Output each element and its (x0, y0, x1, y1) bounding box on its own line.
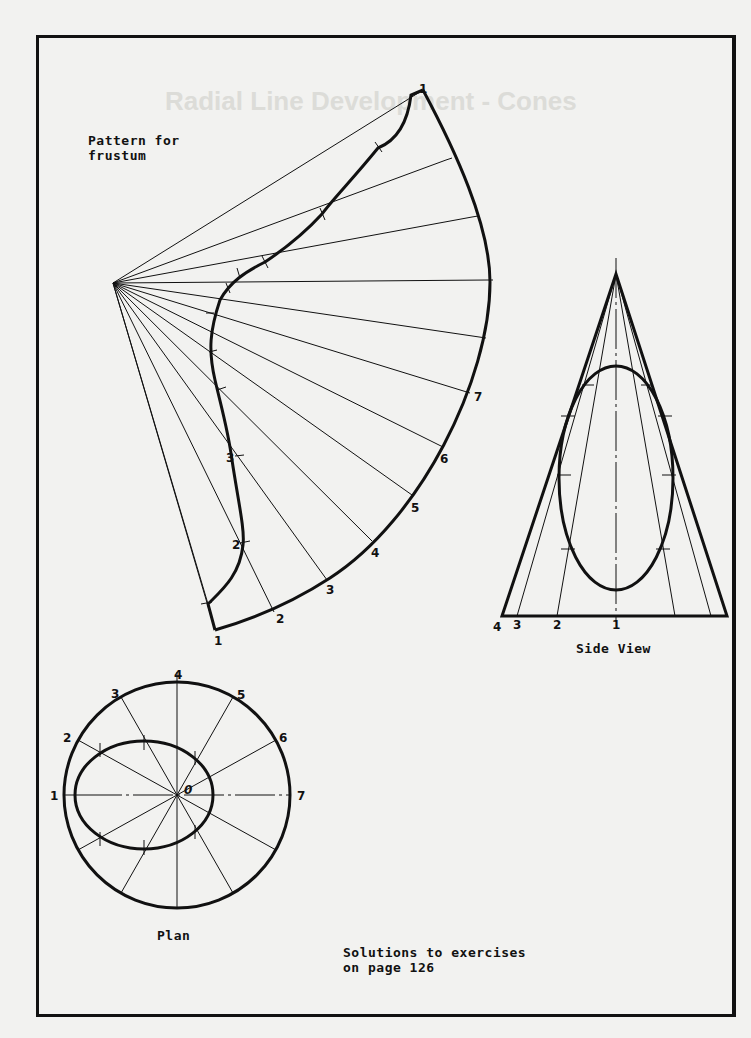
technical-drawing: 1 7 6 5 4 3 2 1 3 2 (0, 0, 751, 1038)
pattern-label-bottom-1: 1 (214, 634, 222, 648)
pattern-label-3: 3 (326, 583, 334, 597)
plan-label-5: 5 (237, 688, 245, 702)
pattern-label-2: 2 (276, 612, 284, 626)
frustum-pattern (113, 90, 493, 630)
pattern-label-top-1: 1 (419, 82, 427, 96)
side-view-caption: Side View (576, 641, 651, 656)
pattern-label-6: 6 (440, 452, 448, 466)
plan-label-4: 4 (174, 668, 182, 682)
side-view-labels: 4 3 2 1 (493, 618, 620, 634)
plan-label-6: 6 (279, 731, 287, 745)
plan-label-2: 2 (63, 731, 71, 745)
side-view-drawing (502, 258, 727, 622)
side-label-1: 1 (612, 618, 620, 632)
solutions-note: Solutions to exercises on page 126 (343, 945, 526, 975)
pattern-inner-label-3: 3 (226, 451, 234, 465)
plan-labels: 4 3 5 2 6 1 7 0 (50, 668, 305, 803)
side-label-4: 4 (493, 620, 501, 634)
pattern-inner-label-2: 2 (232, 538, 240, 552)
pattern-label-7: 7 (474, 390, 482, 404)
radial-lines (113, 90, 493, 630)
plan-label-3: 3 (111, 687, 119, 701)
side-label-3: 3 (513, 618, 521, 632)
plan-label-centre: 0 (184, 783, 192, 797)
pattern-label-5: 5 (411, 501, 419, 515)
side-label-2: 2 (553, 618, 561, 632)
plan-label-1: 1 (50, 789, 58, 803)
pattern-label-4: 4 (371, 546, 379, 560)
outer-arc (215, 90, 490, 630)
plan-drawing (64, 672, 290, 908)
plan-caption: Plan (157, 928, 190, 943)
plan-label-7: 7 (297, 789, 305, 803)
